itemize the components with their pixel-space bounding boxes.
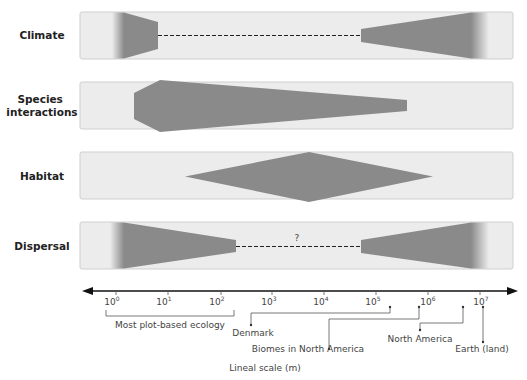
axis-title: Lineal scale (m) — [229, 363, 300, 373]
tick-label-1e7: 107 — [473, 295, 488, 307]
dispersal-left-fade — [110, 223, 124, 269]
climate-left-fade — [112, 13, 124, 59]
tick-label-1e5: 105 — [365, 295, 380, 307]
row-label-habitat: Habitat — [20, 170, 64, 182]
tick-label-1e6: 106 — [420, 295, 435, 307]
label-biomes-north-america: Biomes in North America — [252, 344, 364, 354]
row-species-interactions: Species interactions — [6, 80, 513, 132]
row-habitat: Habitat — [20, 152, 513, 202]
tick-label-1e3: 103 — [261, 295, 276, 307]
row-dispersal: Dispersal ? — [14, 222, 513, 269]
label-plot-based-ecology: Most plot-based ecology — [115, 320, 226, 330]
arrow-left-icon — [82, 287, 93, 295]
tick-label-1e0: 100 — [104, 295, 119, 307]
scale-diagram: Climate Species interactions Habitat Dis… — [0, 0, 527, 380]
tick-label-1e2: 102 — [209, 295, 224, 307]
label-north-america: North America — [387, 334, 452, 344]
dispersal-question-mark: ? — [295, 233, 300, 243]
connector-north-america — [420, 307, 463, 330]
row-label-dispersal: Dispersal — [14, 240, 69, 252]
row-label-climate: Climate — [19, 29, 64, 41]
x-axis: 100 101 102 103 104 105 106 107 — [82, 287, 518, 307]
connector-denmark — [251, 307, 390, 325]
arrow-right-icon — [507, 287, 518, 295]
dispersal-right-fade — [471, 223, 489, 269]
label-denmark: Denmark — [232, 328, 274, 338]
tick-label-1e1: 101 — [156, 295, 171, 307]
climate-right-fade — [471, 13, 489, 59]
bracket-plot-based — [106, 310, 234, 316]
row-label-species-interactions: Species interactions — [6, 93, 77, 118]
row-climate: Climate — [19, 12, 513, 59]
label-earth-land: Earth (land) — [455, 344, 508, 354]
tick-label-1e4: 104 — [313, 295, 328, 307]
